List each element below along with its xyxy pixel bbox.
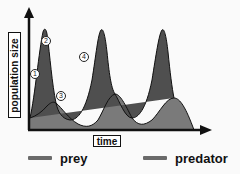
- annotation-marker-3: 3: [56, 91, 66, 101]
- predator-swatch-icon: [143, 156, 167, 160]
- chart-plot: [0, 0, 240, 174]
- marker-label: 3: [59, 92, 63, 99]
- y-axis-arrow-icon: [24, 7, 34, 18]
- marker-label: 4: [82, 53, 86, 60]
- y-axis-label: population size: [9, 38, 20, 112]
- legend-item-predator: predator: [143, 150, 228, 166]
- y-axis-label-box: population size: [8, 32, 21, 118]
- marker-label: 1: [33, 70, 37, 77]
- legend-label-predator: predator: [175, 151, 228, 166]
- legend-label-prey: prey: [60, 151, 87, 166]
- prey-swatch-icon: [28, 156, 52, 160]
- x-axis-label: time: [97, 136, 118, 147]
- x-axis-label-box: time: [93, 135, 121, 147]
- marker-label: 2: [44, 37, 48, 44]
- annotation-marker-4: 4: [79, 52, 89, 62]
- legend-item-prey: prey: [28, 150, 87, 166]
- annotation-marker-2: 2: [41, 36, 51, 46]
- x-axis-arrow-icon: [200, 125, 212, 135]
- annotation-marker-1: 1: [30, 69, 40, 79]
- prey-area: [30, 29, 174, 120]
